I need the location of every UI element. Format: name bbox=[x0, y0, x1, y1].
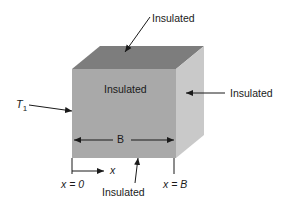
right-label: Insulated bbox=[230, 87, 273, 99]
t1-label: T1 bbox=[16, 98, 27, 113]
front-label: Insulated bbox=[104, 83, 147, 95]
bottom-arrow bbox=[135, 158, 138, 183]
t1-subscript: 1 bbox=[23, 104, 27, 113]
width-label: B bbox=[117, 133, 124, 145]
x-start-label: x = 0 bbox=[61, 178, 84, 190]
axis-label: x bbox=[110, 164, 115, 176]
t1-symbol: T bbox=[16, 98, 23, 110]
left-arrow bbox=[29, 105, 72, 111]
top-label: Insulated bbox=[152, 12, 195, 24]
cube-diagram bbox=[0, 0, 285, 205]
x-end-label: x = B bbox=[163, 178, 187, 190]
bottom-label: Insulated bbox=[102, 186, 145, 198]
